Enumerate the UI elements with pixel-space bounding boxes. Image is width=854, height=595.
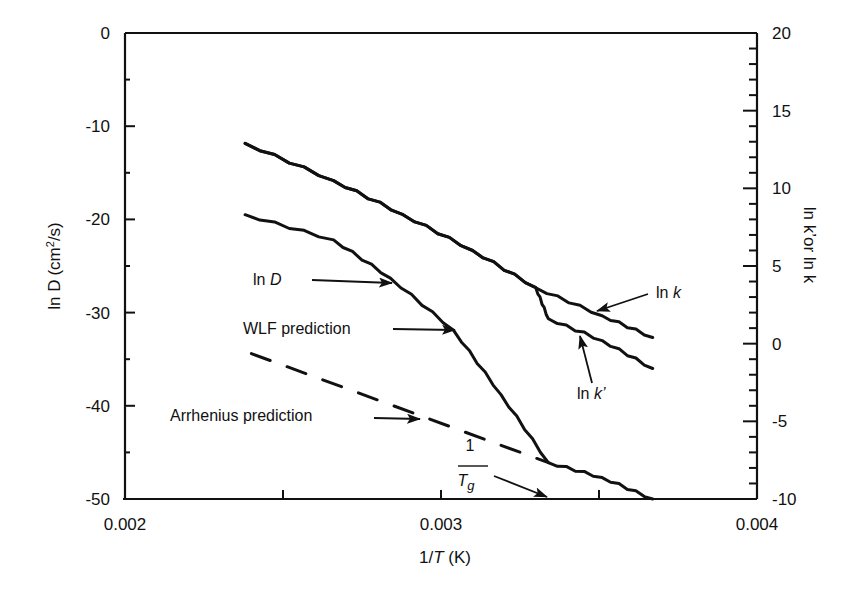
- y2-tick-label: 5: [772, 257, 781, 276]
- y2-tick-label: 20: [772, 24, 791, 43]
- annotation-arrhenius-prediction: Arrhenius prediction: [170, 407, 420, 424]
- y-tick-label: -10: [85, 117, 110, 136]
- svg-text:ln k’: ln k’: [577, 385, 606, 402]
- svg-text:ln k: ln k: [656, 284, 682, 301]
- x-tick-label: 0.002: [104, 515, 147, 534]
- y2-tick-label: -10: [772, 490, 797, 509]
- chart: 0-10-20-30-40-50 20151050-5-10 0.0020.00…: [0, 0, 854, 595]
- y2-tick-label: 10: [772, 179, 791, 198]
- y-tick-label: -20: [85, 210, 110, 229]
- svg-text:1: 1: [466, 437, 475, 454]
- x-tick-label: 0.004: [736, 515, 779, 534]
- annotation-wlf-prediction: WLF prediction: [243, 320, 455, 337]
- svg-text:Tg: Tg: [457, 472, 475, 493]
- y2-tick-label: -5: [772, 412, 787, 431]
- y2-tick-label: 15: [772, 102, 791, 121]
- y-tick-label: -30: [85, 304, 110, 323]
- y2-axis-title: ln k’or ln k: [800, 207, 819, 284]
- svg-text:WLF prediction: WLF prediction: [243, 320, 351, 337]
- series-ln-d: [245, 215, 653, 499]
- series-ln-k: [245, 143, 653, 337]
- y-tick-label: -50: [85, 490, 110, 509]
- y-tick-label: 0: [101, 24, 110, 43]
- svg-text:Arrhenius prediction: Arrhenius prediction: [170, 407, 312, 424]
- y-tick-label: -40: [85, 397, 110, 416]
- right-axis-ticks: 20151050-5-10: [743, 24, 797, 509]
- x-tick-label: 0.003: [420, 515, 463, 534]
- y2-tick-label: 0: [772, 335, 781, 354]
- plot-frame: [123, 33, 757, 499]
- annotation-ln-k-prime: ln k’: [577, 336, 606, 402]
- bottom-axis-ticks: 0.0020.0030.004: [104, 490, 779, 534]
- annotation-ln-d: ln D: [253, 271, 392, 288]
- annotation-ln-k: ln k: [597, 284, 682, 311]
- svg-text:ln D: ln D: [253, 271, 282, 288]
- left-axis-ticks: 0-10-20-30-40-50: [85, 24, 135, 509]
- y-axis-title: ln D(cm2/s): [44, 222, 64, 310]
- x-axis-title: 1/T (K): [419, 548, 471, 567]
